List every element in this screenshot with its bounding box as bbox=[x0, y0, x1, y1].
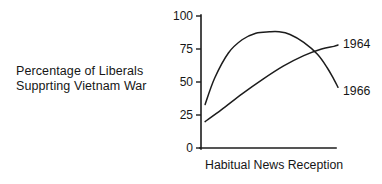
y-tick-label-50: 50 bbox=[180, 75, 194, 89]
y-tick-label-100: 100 bbox=[173, 9, 193, 23]
y-tick-label-0: 0 bbox=[186, 141, 193, 155]
chart-figure: Percentage of Liberals Supprting Vietnam… bbox=[0, 0, 382, 184]
series-label-1964: 1964 bbox=[343, 37, 371, 51]
chart-side-caption: Percentage of Liberals Supprting Vietnam… bbox=[16, 64, 181, 94]
series-line-1966 bbox=[205, 32, 338, 105]
caption-line-1: Percentage of Liberals bbox=[16, 64, 181, 79]
series-label-1966: 1966 bbox=[343, 84, 371, 98]
y-tick-label-25: 25 bbox=[180, 108, 194, 122]
caption-line-2: Supprting Vietnam War bbox=[16, 79, 181, 94]
x-axis-title: Habitual News Reception bbox=[205, 158, 343, 172]
y-tick-label-75: 75 bbox=[180, 42, 194, 56]
series-line-1964 bbox=[205, 45, 338, 122]
